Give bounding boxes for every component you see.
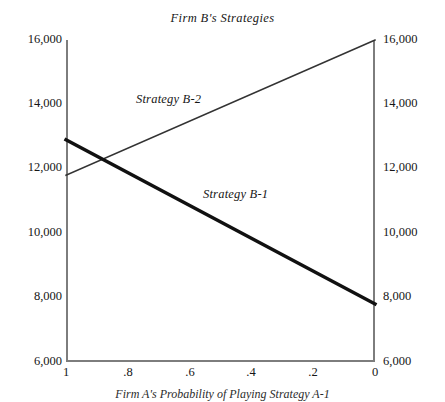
y-axis-right-tick-10000: 10,000 xyxy=(383,226,417,239)
y-axis-left-tick-10000: 10,000 xyxy=(28,226,62,239)
series-label-strategy-b2: Strategy B-2 xyxy=(136,92,201,107)
y-axis-right-tick-8000: 8,000 xyxy=(383,290,411,303)
series-label-strategy-b1: Strategy B-1 xyxy=(203,187,268,202)
y-axis-right-tick-12000: 12,000 xyxy=(383,161,417,174)
y-axis-right-line xyxy=(373,40,375,362)
x-axis-tick-06: .6 xyxy=(175,366,205,379)
y-axis-left-tick-8000: 8,000 xyxy=(34,290,62,303)
y-axis-left-line xyxy=(66,40,68,362)
y-axis-left-tick-12000: 12,000 xyxy=(28,161,62,174)
x-axis-tick-0: 0 xyxy=(360,366,390,379)
x-axis-tick-1: 1 xyxy=(51,366,81,379)
y-axis-right-tick-16000: 16,000 xyxy=(383,33,417,46)
chart-title: Firm B's Strategies xyxy=(0,11,445,26)
x-axis-tick-04: .4 xyxy=(236,366,266,379)
y-axis-left-tick-16000: 16,000 xyxy=(28,33,62,46)
y-axis-left-tick-14000: 14,000 xyxy=(28,97,62,110)
figure-caption: Firm A's Probability of Playing Strategy… xyxy=(0,387,445,402)
x-axis-tick-02: .2 xyxy=(298,366,328,379)
x-axis-line xyxy=(66,360,375,362)
x-axis-tick-08: .8 xyxy=(113,366,143,379)
y-axis-right-tick-14000: 14,000 xyxy=(383,97,417,110)
